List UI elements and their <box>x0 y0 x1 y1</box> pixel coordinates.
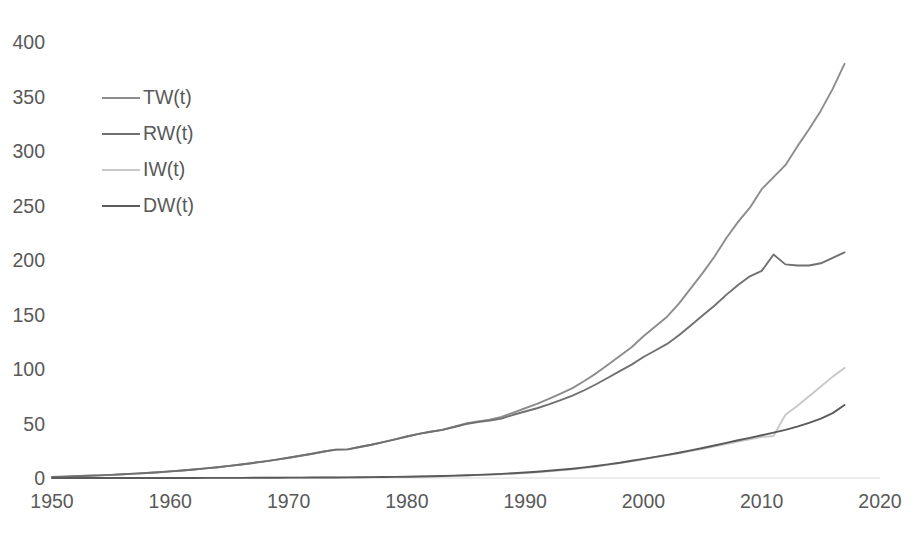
x-tick-label: 1950 <box>30 490 74 512</box>
x-tick-label: 1970 <box>267 490 311 512</box>
y-tick-label: 200 <box>12 249 45 271</box>
series-line-dwt <box>52 405 845 478</box>
y-tick-label: 350 <box>12 86 45 108</box>
chart-container: 050100150200250300350400 195019601970198… <box>0 0 924 540</box>
x-tick-label: 1960 <box>149 490 193 512</box>
series-line-iwt <box>52 368 845 478</box>
y-tick-label: 0 <box>34 467 45 489</box>
legend-label-twt: TW(t) <box>143 86 192 108</box>
y-tick-label: 400 <box>12 31 45 53</box>
chart-legend: TW(t)RW(t)IW(t)DW(t) <box>102 86 194 216</box>
y-tick-label: 100 <box>12 358 45 380</box>
x-tick-label: 1980 <box>385 490 429 512</box>
legend-label-iwt: IW(t) <box>143 158 185 180</box>
x-tick-label: 2020 <box>858 490 902 512</box>
x-tick-label: 2000 <box>622 490 666 512</box>
y-tick-label: 250 <box>12 195 45 217</box>
y-tick-label: 300 <box>12 140 45 162</box>
y-tick-label: 150 <box>12 304 45 326</box>
x-axis-tick-labels: 19501960197019801990200020102020 <box>30 490 902 512</box>
line-chart: 050100150200250300350400 195019601970198… <box>0 0 924 540</box>
x-tick-label: 2010 <box>740 490 784 512</box>
y-axis-tick-labels: 050100150200250300350400 <box>12 31 45 489</box>
x-tick-label: 1990 <box>503 490 547 512</box>
legend-label-rwt: RW(t) <box>143 122 194 144</box>
legend-label-dwt: DW(t) <box>143 194 194 216</box>
y-tick-label: 50 <box>23 413 45 435</box>
